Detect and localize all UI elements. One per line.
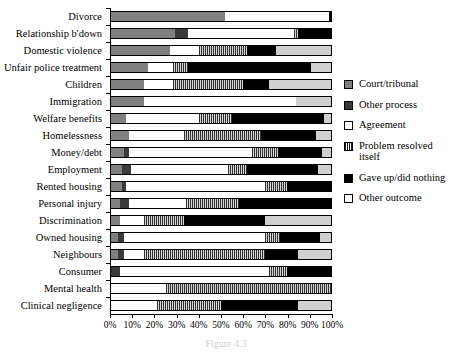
y-axis-label: Domestic violence	[0, 45, 106, 56]
bar-segment-agreement	[129, 199, 186, 208]
x-axis-tick	[154, 314, 155, 318]
bar-segment-other-outcome	[318, 165, 331, 174]
y-axis-label: Rented housing	[0, 181, 106, 192]
bar-segment-resolved	[199, 46, 247, 55]
legend-item: Other process	[344, 99, 452, 111]
stacked-bar	[110, 266, 332, 277]
bar-segment-gaveup	[188, 63, 311, 72]
bars-container	[110, 8, 332, 314]
chart-bar-row	[110, 266, 332, 277]
chart-bar-row	[110, 62, 332, 73]
y-axis-label: Welfare benefits	[0, 113, 106, 124]
y-axis-label: Mental health	[0, 283, 106, 294]
x-axis-tick-label: 100%	[317, 319, 347, 331]
bar-segment-gaveup	[243, 80, 269, 89]
bar-segment-agreement	[120, 216, 144, 225]
bar-segment-gaveup	[298, 29, 331, 38]
legend-label: Other process	[359, 99, 417, 111]
bar-segment-gaveup	[239, 199, 331, 208]
bar-segment-gaveup	[278, 148, 322, 157]
bar-segment-court	[111, 148, 124, 157]
bar-segment-agreement	[188, 29, 294, 38]
bar-segment-resolved	[173, 80, 243, 89]
stacked-bar-chart: DivorceRelationship b'downDomestic viole…	[0, 0, 452, 354]
bar-segment-gaveup	[280, 233, 320, 242]
chart-bar-row	[110, 164, 332, 175]
bar-segment-resolved	[269, 267, 287, 276]
bar-segment-gaveup	[287, 267, 331, 276]
y-axis-tick	[106, 42, 110, 43]
y-axis-label: Neighbours	[0, 249, 106, 260]
x-axis-tick	[265, 314, 266, 318]
legend-label: Other outcome	[359, 192, 422, 204]
legend-swatch-other-process-icon	[344, 101, 353, 110]
bar-segment-resolved	[252, 148, 278, 157]
bar-segment-gaveup	[184, 216, 265, 225]
y-axis-category-labels: DivorceRelationship b'downDomestic viole…	[0, 8, 106, 314]
bar-segment-other-outcome	[311, 63, 331, 72]
chart-legend: Court/tribunalOther processAgreementProb…	[344, 78, 452, 213]
bar-segment-agreement	[111, 301, 157, 310]
bar-segment-resolved	[199, 114, 232, 123]
y-axis-tick	[106, 229, 110, 230]
bar-segment-gaveup	[265, 250, 298, 259]
chart-bar-row	[110, 283, 332, 294]
stacked-bar	[110, 113, 332, 124]
y-axis-tick	[106, 110, 110, 111]
bar-segment-agreement	[129, 131, 184, 140]
x-axis-tick	[332, 314, 333, 318]
bar-segment-resolved	[157, 301, 221, 310]
y-axis-label: Unfair police treatment	[0, 62, 106, 73]
chart-bar-row	[110, 232, 332, 243]
y-axis-tick	[106, 212, 110, 213]
figure-caption: Figure 4.3	[0, 338, 452, 349]
stacked-bar	[110, 249, 332, 260]
bar-segment-agreement	[144, 80, 173, 89]
legend-item: Problem resolved itself	[344, 140, 452, 163]
bar-segment-resolved	[173, 63, 188, 72]
bar-segment-agreement	[129, 148, 252, 157]
y-axis-tick	[106, 25, 110, 26]
chart-bar-row	[110, 79, 332, 90]
bar-segment-other-process	[175, 29, 188, 38]
y-axis-tick	[106, 59, 110, 60]
bar-segment-other-outcome	[296, 97, 331, 106]
legend-item: Agreement	[344, 119, 452, 131]
chart-bar-row	[110, 300, 332, 311]
chart-bar-row	[110, 215, 332, 226]
x-axis-tick-labels: 0%10%20%30%40%50%60%70%80%90%100%	[0, 319, 452, 333]
bar-segment-other-outcome	[322, 148, 331, 157]
bar-segment-court	[111, 131, 129, 140]
bar-segment-other-outcome	[298, 250, 331, 259]
y-axis-tick	[106, 246, 110, 247]
y-axis-tick	[106, 144, 110, 145]
bar-segment-other-process	[118, 250, 125, 259]
y-axis-tick	[106, 76, 110, 77]
y-axis-label: Personal injury	[0, 198, 106, 209]
chart-bar-row	[110, 147, 332, 158]
y-axis-label: Owned housing	[0, 232, 106, 243]
bar-segment-agreement	[170, 46, 199, 55]
legend-item: Other outcome	[344, 192, 452, 204]
x-axis-tick	[310, 314, 311, 318]
bar-segment-other-outcome	[265, 216, 331, 225]
bar-segment-other-process	[122, 165, 131, 174]
bar-segment-resolved	[144, 216, 184, 225]
chart-bar-row	[110, 11, 332, 22]
bar-segment-other-outcome	[320, 233, 331, 242]
y-axis-tick	[106, 161, 110, 162]
bar-segment-court	[111, 29, 175, 38]
bar-segment-resolved	[265, 233, 280, 242]
bar-segment-court	[111, 114, 126, 123]
bar-segment-other-process	[118, 233, 125, 242]
x-axis-tick	[243, 314, 244, 318]
y-axis-label: Homelessness	[0, 130, 106, 141]
bar-segment-court	[111, 216, 120, 225]
chart-bar-row	[110, 181, 332, 192]
bar-segment-agreement	[124, 233, 265, 242]
bar-segment-resolved	[166, 284, 331, 293]
bar-segment-gaveup	[247, 46, 276, 55]
y-axis-label: Discrimination	[0, 215, 106, 226]
legend-label: Problem resolved itself	[359, 140, 452, 163]
y-axis-label: Employment	[0, 164, 106, 175]
